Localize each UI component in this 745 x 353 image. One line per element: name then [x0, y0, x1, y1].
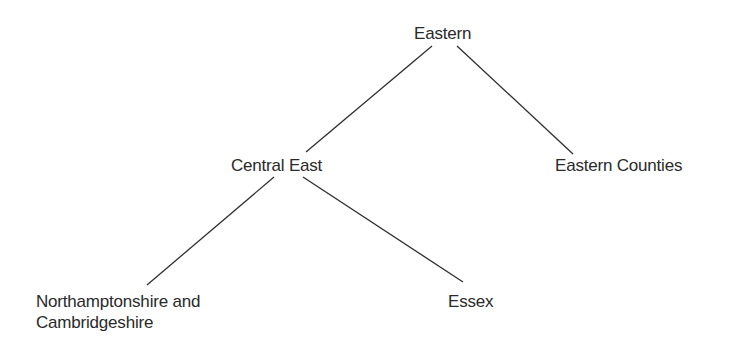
- node-eastern-counties: Eastern Counties: [555, 155, 682, 176]
- node-essex: Essex: [448, 291, 493, 312]
- node-label-line-2: Cambridgeshire: [36, 312, 200, 333]
- edge-eastern-central-east: [306, 46, 432, 152]
- edge-central-east-essex: [303, 177, 463, 282]
- node-northamptonshire-cambridgeshire: Northamptonshire and Cambridgeshire: [36, 291, 200, 333]
- node-label-line-1: Northamptonshire and: [36, 291, 200, 312]
- edge-eastern-eastern-counties: [457, 46, 573, 154]
- node-central-east: Central East: [231, 155, 322, 176]
- edge-central-east-northants: [147, 177, 274, 285]
- node-eastern: Eastern: [414, 23, 471, 44]
